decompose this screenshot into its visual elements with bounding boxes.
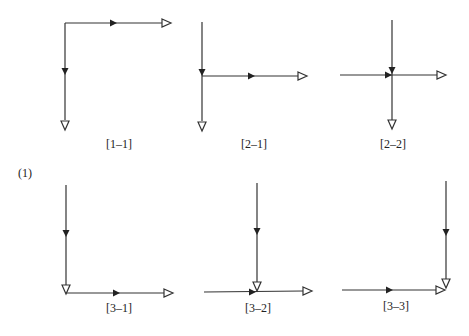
panel-3-1-diagram bbox=[62, 185, 173, 297]
hollow-arrow-icon bbox=[437, 71, 446, 79]
filled-arrow-icon bbox=[62, 68, 69, 75]
panel-label-3-1: [3–1] bbox=[106, 301, 132, 316]
filled-arrow-icon bbox=[113, 290, 120, 297]
hollow-arrow-icon bbox=[198, 122, 206, 131]
filled-arrow-icon bbox=[254, 228, 261, 235]
hollow-arrow-icon bbox=[164, 289, 173, 297]
panel-label-3-2: [3–2] bbox=[245, 301, 271, 316]
filled-arrow-icon bbox=[199, 69, 206, 76]
filled-arrow-icon bbox=[385, 72, 392, 79]
hollow-arrow-icon bbox=[253, 282, 261, 291]
filled-arrow-icon bbox=[249, 289, 256, 296]
panel-2-2-diagram bbox=[340, 20, 446, 129]
filled-arrow-icon bbox=[63, 230, 70, 237]
flow-diagram-canvas bbox=[0, 0, 469, 336]
hollow-arrow-icon bbox=[298, 72, 307, 80]
panel-label-2-1: [2–1] bbox=[241, 137, 267, 152]
panel-3-2-diagram bbox=[204, 183, 312, 296]
hollow-arrow-icon bbox=[388, 120, 396, 129]
filled-arrow-icon bbox=[110, 20, 117, 27]
panel-label-3-3: [3–3] bbox=[383, 299, 409, 314]
panel-label-2-2: [2–2] bbox=[380, 137, 406, 152]
filled-arrow-icon bbox=[443, 229, 450, 236]
hollow-arrow-icon bbox=[442, 279, 450, 288]
panel-3-3-diagram bbox=[342, 181, 450, 294]
figure-number-label: (1) bbox=[18, 166, 32, 181]
panel-2-1-diagram bbox=[198, 22, 307, 131]
hollow-arrow-icon bbox=[61, 121, 69, 130]
filled-arrow-icon bbox=[389, 67, 396, 74]
filled-arrow-icon bbox=[248, 73, 255, 80]
hollow-arrow-icon bbox=[303, 287, 312, 295]
hollow-arrow-icon bbox=[162, 19, 171, 27]
filled-arrow-icon bbox=[386, 287, 393, 294]
panel-label-1-1: [1–1] bbox=[106, 137, 132, 152]
hollow-arrow-icon bbox=[436, 286, 445, 294]
panel-1-1-diagram bbox=[61, 19, 171, 130]
